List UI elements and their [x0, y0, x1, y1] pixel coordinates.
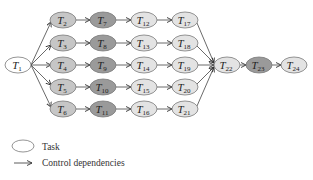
edge-T20-T22: [197, 67, 214, 84]
task-node-t11: T11: [90, 101, 116, 117]
task-node-t4: T4: [50, 57, 76, 73]
task-node-t1: T1: [5, 57, 31, 73]
task-node-t23: T23: [246, 57, 272, 73]
task-node-t20: T20: [172, 79, 198, 95]
task-node-t9: T9: [90, 57, 116, 73]
task-node-t19: T19: [172, 57, 198, 73]
legend-dependency-label: Control dependencies: [42, 158, 125, 168]
task-node-t17: T17: [172, 12, 198, 28]
task-node-t3: T3: [50, 35, 76, 51]
task-node-t7: T7: [90, 12, 116, 28]
edge-T21-T22: [197, 67, 214, 106]
edge-T1-T5: [31, 65, 51, 85]
task-node-t15: T15: [131, 79, 157, 95]
edge-T1-T3: [31, 45, 51, 65]
task-node-t12: T12: [131, 12, 157, 28]
task-node-t16: T16: [131, 101, 157, 117]
task-node-t21: T21: [172, 101, 198, 117]
legend: Task Control dependencies: [12, 140, 125, 168]
task-node-t6: T6: [50, 101, 76, 117]
task-node-t18: T18: [172, 35, 198, 51]
nodes-layer: T1T2T3T4T5T6T7T8T9T10T11T12T13T14T15T16T…: [5, 12, 307, 117]
legend-task-label: Task: [42, 142, 60, 152]
task-node-t24: T24: [281, 57, 307, 73]
edge-T1-T2: [31, 22, 51, 65]
task-node-t10: T10: [90, 79, 116, 95]
task-node-t22: T22: [214, 57, 240, 73]
task-node-t5: T5: [50, 79, 76, 95]
legend-task-icon: [12, 140, 34, 152]
task-node-t14: T14: [131, 57, 157, 73]
edge-T17-T22: [197, 23, 214, 63]
task-node-t8: T8: [90, 35, 116, 51]
task-node-t13: T13: [131, 35, 157, 51]
edge-T18-T22: [197, 46, 214, 63]
task-dependency-diagram: T1T2T3T4T5T6T7T8T9T10T11T12T13T14T15T16T…: [0, 0, 313, 180]
edge-T1-T6: [31, 65, 51, 107]
task-node-t2: T2: [50, 12, 76, 28]
